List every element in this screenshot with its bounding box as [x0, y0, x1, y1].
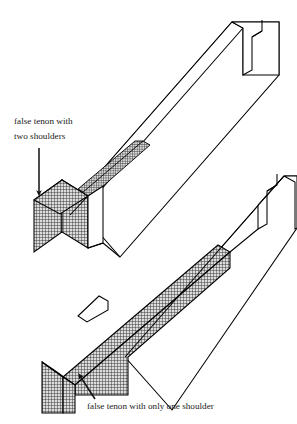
annotation-upper-line2: two shoulders: [14, 131, 66, 141]
upper-board-recess-face: [88, 186, 103, 248]
annotation-lower-line1: false tenon with only one shoulder: [87, 401, 214, 411]
annotation-upper-line1: false tenon with: [14, 116, 73, 126]
false-tenon-illustration: false tenon with two shoulders false ten…: [0, 0, 297, 424]
